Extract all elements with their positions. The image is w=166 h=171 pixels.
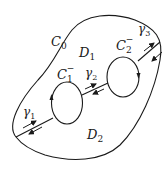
label-d2: D2 — [86, 127, 103, 144]
gamma1-backward-arrow-icon — [29, 127, 42, 134]
label-gamma3: γ3 — [138, 22, 150, 38]
label-c1-minus: C1− — [57, 63, 74, 84]
gamma2-forward-arrow-icon — [85, 84, 96, 89]
inner-contour-c1 — [52, 82, 83, 124]
label-d1: D1 — [78, 45, 95, 62]
label-c2-minus: C2− — [116, 34, 133, 55]
gamma1-forward-arrow-icon — [23, 121, 36, 128]
inner-contour-c2 — [107, 57, 139, 97]
label-c0: C0 — [51, 34, 67, 51]
c2-direction-arrow-icon — [137, 73, 141, 79]
label-gamma1: γ1 — [23, 105, 35, 121]
gamma3-forward-arrow-icon — [144, 43, 154, 51]
multiply-connected-domain-diagram: C0 D1 C2− γ3 C1− γ2 γ1 D2 — [0, 0, 166, 171]
label-gamma2: γ2 — [85, 66, 97, 82]
cut-gamma3 — [138, 42, 160, 61]
